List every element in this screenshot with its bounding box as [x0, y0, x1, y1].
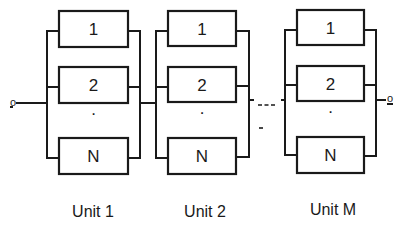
unit-1: 1 2 · N Unit 1: [47, 11, 140, 220]
unit-1-component-2-label: 2: [89, 76, 98, 95]
unit-1-component-n-label: N: [87, 147, 99, 166]
unit-m-component-2-label: 2: [326, 75, 335, 94]
unit-1-component-1-label: 1: [89, 20, 98, 39]
unit-2-left-rail: [156, 31, 168, 158]
unit-m-left-rail: [285, 30, 297, 155]
unit-2-label: Unit 2: [184, 203, 226, 220]
unit-1-label: Unit 1: [72, 203, 114, 220]
output-terminal: o: [387, 92, 393, 104]
unit-m-right-rail: [364, 30, 376, 156]
unit-1-right-rail: [128, 31, 140, 158]
unit-m-vertical-ellipsis: ·: [328, 102, 334, 121]
unit-2-component-1-label: 1: [197, 20, 206, 39]
unit-1-vertical-ellipsis: ·: [91, 104, 97, 123]
unit-m: 1 2 · N Unit M: [285, 10, 376, 218]
unit-2: 1 2 · N Unit 2: [156, 11, 249, 220]
reliability-block-diagram: o 1 2 · N Unit 1 1 2 · N Unit 2: [0, 0, 400, 232]
unit-2-component-2-label: 2: [197, 76, 206, 95]
unit-m-label: Unit M: [310, 201, 356, 218]
unit-m-component-1-label: 1: [326, 19, 335, 38]
unit-2-right-rail: [236, 31, 249, 157]
unit-2-component-n-label: N: [196, 147, 208, 166]
unit-m-component-n-label: N: [324, 146, 336, 165]
unit-1-left-rail: [47, 31, 59, 158]
unit-2-vertical-ellipsis: ·: [199, 103, 205, 122]
